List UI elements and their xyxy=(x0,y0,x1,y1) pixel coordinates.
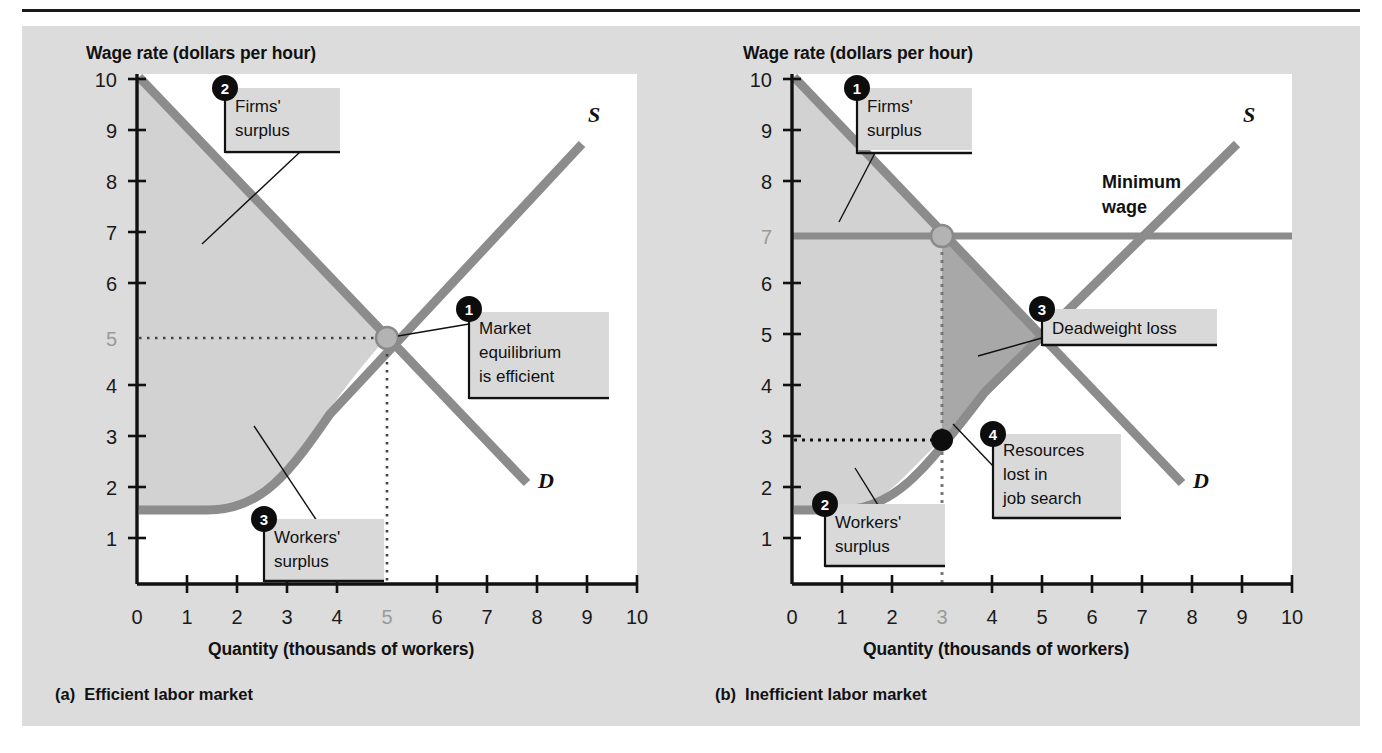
figure-body: Wage rate (dollars per hour) Quantity (t… xyxy=(22,26,1360,726)
figure-top-rule xyxy=(22,9,1360,12)
panel-a-xtick-10: 10 xyxy=(626,606,648,628)
panel-b-callout-resources-lost-line-2: job search xyxy=(1002,489,1081,508)
panel-a-ytick-5: 5 xyxy=(106,328,117,350)
panel-b-ytick-2: 2 xyxy=(761,477,772,499)
panel-a-callout-market-equilibrium-badge-number: 1 xyxy=(465,301,473,318)
panel-b-xtick-0: 0 xyxy=(786,606,797,628)
figure-root: Wage rate (dollars per hour) Quantity (t… xyxy=(0,0,1382,753)
panel-inefficient-labor-market: Wage rate (dollars per hour) Quantity (t… xyxy=(691,26,1360,726)
panel-b-supply-point-marker xyxy=(931,429,953,451)
panel-a-xtick-1: 1 xyxy=(181,606,192,628)
panel-a-xtick-9: 9 xyxy=(581,606,592,628)
panel-b-callout-resources-lost-badge-number: 4 xyxy=(989,426,998,443)
panel-a-ytick-1: 1 xyxy=(106,528,117,550)
panel-b-callout-resources-lost-line-0: Resources xyxy=(1003,441,1084,460)
panel-a-ytick-4: 4 xyxy=(106,375,117,397)
panel-a-xtick-6: 6 xyxy=(431,606,442,628)
panel-b-callout-workers-surplus-line-0: Workers' xyxy=(835,513,901,532)
panel-a-callout-workers-surplus-badge-number: 3 xyxy=(260,511,268,528)
panel-a-supply-label: S xyxy=(588,102,600,127)
panel-a-xtick-0: 0 xyxy=(131,606,142,628)
panel-b-callout-workers-surplus-badge-number: 2 xyxy=(821,496,829,513)
panel-b-ytick-5: 5 xyxy=(761,324,772,346)
panel-efficient-labor-market: Wage rate (dollars per hour) Quantity (t… xyxy=(22,26,691,726)
panel-a-ytick-9: 9 xyxy=(106,120,117,142)
panel-b-ytick-10: 10 xyxy=(750,69,772,91)
panel-b-plot: 10 9 8 7 6 5 4 3 2 1 xyxy=(691,26,1360,726)
panel-a-callout-firms-surplus-line-0: Firms' xyxy=(235,97,281,116)
panel-a-demand-label: D xyxy=(537,468,554,493)
panel-b-y-tick-labels: 10 9 8 7 6 5 4 3 2 1 xyxy=(750,69,772,550)
panel-b-xtick-3: 3 xyxy=(936,606,947,628)
panel-b-callout-deadweight-loss-line-0: Deadweight loss xyxy=(1052,319,1177,338)
panel-b-ytick-3: 3 xyxy=(761,426,772,448)
panel-b-xtick-2: 2 xyxy=(886,606,897,628)
panel-a-xtick-7: 7 xyxy=(481,606,492,628)
panel-b-demand-label: D xyxy=(1192,468,1209,493)
panel-a-callout-firms-surplus-badge-number: 2 xyxy=(221,80,229,97)
panel-b-resources-lost-region xyxy=(792,236,942,440)
panel-a-callout-market-equilibrium-line-0: Market xyxy=(479,319,531,338)
panel-a-ytick-3: 3 xyxy=(106,426,117,448)
panel-b-xtick-5: 5 xyxy=(1036,606,1047,628)
panel-b-minimum-wage-marker xyxy=(931,225,953,247)
panel-a-ytick-7: 7 xyxy=(106,222,117,244)
panel-b-callout-firms-surplus-line-0: Firms' xyxy=(867,97,913,116)
panel-a-y-tick-labels: 10 9 8 7 6 5 4 3 2 1 xyxy=(95,69,117,550)
panel-a-x-tick-labels: 0 1 2 3 4 5 6 7 8 9 10 xyxy=(131,606,648,628)
panel-b-callout-workers-surplus-line-1: surplus xyxy=(835,537,890,556)
panel-b-xtick-6: 6 xyxy=(1086,606,1097,628)
panel-a-xtick-5: 5 xyxy=(381,606,392,628)
panel-b-xtick-10: 10 xyxy=(1281,606,1303,628)
panel-b-supply-label: S xyxy=(1243,102,1255,127)
panel-b-callout-deadweight-loss-badge-number: 3 xyxy=(1038,301,1046,318)
panel-b-x-tick-labels: 0 1 2 3 4 5 6 7 8 9 10 xyxy=(786,606,1303,628)
panel-a-ytick-6: 6 xyxy=(106,273,117,295)
panel-a-callout-workers-surplus-line-0: Workers' xyxy=(274,528,340,547)
panel-b-ytick-4: 4 xyxy=(761,375,772,397)
panel-a-ytick-10: 10 xyxy=(95,69,117,91)
panel-a-xtick-3: 3 xyxy=(281,606,292,628)
panel-b-ytick-1: 1 xyxy=(761,528,772,550)
panel-b-minimum-wage-label-line-0: Minimum xyxy=(1102,172,1181,192)
panel-a-callout-firms-surplus-line-1: surplus xyxy=(235,121,290,140)
panel-a-xtick-8: 8 xyxy=(531,606,542,628)
panel-b-ytick-6: 6 xyxy=(761,273,772,295)
panel-a-xtick-4: 4 xyxy=(331,606,342,628)
panel-b-xtick-9: 9 xyxy=(1236,606,1247,628)
panel-b-callout-firms-surplus-badge-number: 1 xyxy=(853,80,861,97)
panel-a-callout-market-equilibrium-line-2: is efficient xyxy=(479,367,555,386)
panel-b-callout-firms-surplus-line-1: surplus xyxy=(867,121,922,140)
panel-a-callout-workers-surplus-line-1: surplus xyxy=(274,552,329,571)
panel-b-xtick-8: 8 xyxy=(1186,606,1197,628)
panel-b-ytick-8: 8 xyxy=(761,171,772,193)
panel-b-xtick-1: 1 xyxy=(836,606,847,628)
panel-b-ytick-7: 7 xyxy=(761,226,772,248)
panel-b-xtick-7: 7 xyxy=(1136,606,1147,628)
panel-b-callout-resources-lost-line-1: lost in xyxy=(1003,465,1047,484)
panel-b-minimum-wage-label-line-1: wage xyxy=(1101,197,1147,217)
panel-b-ytick-9: 9 xyxy=(761,120,772,142)
panel-a-ytick-8: 8 xyxy=(106,171,117,193)
panel-a-callout-market-equilibrium-line-1: equilibrium xyxy=(479,343,561,362)
panel-a-plot: 10 9 8 7 6 5 4 3 2 1 xyxy=(22,26,691,726)
panel-a-xtick-2: 2 xyxy=(231,606,242,628)
panel-a-equilibrium-marker xyxy=(376,327,398,349)
panel-b-xtick-4: 4 xyxy=(986,606,997,628)
panel-a-ytick-2: 2 xyxy=(106,477,117,499)
